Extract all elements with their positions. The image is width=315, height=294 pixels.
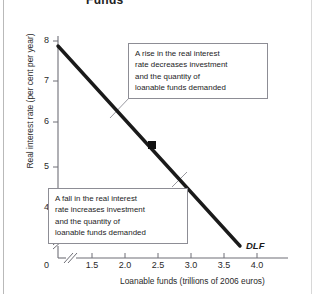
callout-fall-line-1: A fall in the real interest — [55, 193, 182, 204]
callout-rise: A rise in the real interest rate decreas… — [128, 43, 268, 99]
y-tick-label-4: 4 — [33, 202, 49, 212]
x-tick-label-3-0: 3.0 — [178, 260, 204, 270]
callout-rise-line-3: and the quantity of — [135, 71, 262, 82]
x-axis-ticks — [92, 253, 257, 258]
y-tick-label-5: 5 — [33, 161, 49, 171]
y-tick-label-6: 6 — [33, 116, 49, 126]
figure-container: Funds — [0, 0, 315, 294]
callout-rise-line-2: rate decreases investment — [135, 59, 262, 70]
x-tick-label-1-5: 1.5 — [79, 260, 105, 270]
callout-rise-line-4: loanable funds demanded — [135, 82, 262, 93]
callout-fall-line-4: loanable funds demanded — [55, 227, 182, 238]
y-tick-label-7: 7 — [33, 75, 49, 85]
y-axis-title: Real interest rate (per cent per year) — [25, 21, 35, 181]
callout-fall: A fall in the real interest rate increas… — [48, 188, 188, 244]
y-tick-label-0: 0 — [33, 260, 49, 270]
x-tick-label-2-0: 2.0 — [112, 260, 138, 270]
callout-rise-line-1: A rise in the real interest — [135, 48, 262, 59]
callout-fall-line-2: rate increases investment — [55, 204, 182, 215]
callout-fall-line-3: and the quantity of — [55, 216, 182, 227]
equilibrium-marker — [148, 141, 156, 149]
y-axis-ticks — [53, 41, 58, 208]
x-tick-label-2-5: 2.5 — [145, 260, 171, 270]
y-tick-label-8: 8 — [33, 35, 49, 45]
x-axis-title: Loanable funds (trillions of 2006 euros) — [120, 276, 265, 286]
x-tick-label-3-5: 3.5 — [211, 260, 237, 270]
x-tick-label-4-0: 4.0 — [244, 260, 270, 270]
dlf-curve-label: DLF — [246, 240, 264, 251]
